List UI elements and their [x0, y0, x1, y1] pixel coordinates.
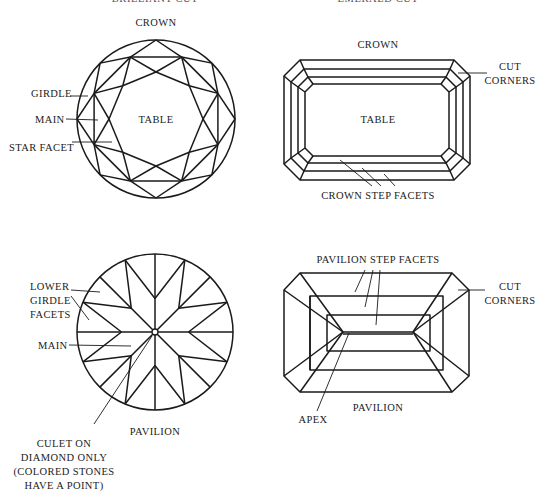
emerald-crown-title: CROWN	[357, 39, 398, 50]
crown-cut-corners-line1: CUT	[499, 61, 521, 72]
crown-corner-edge	[449, 87, 456, 92]
crown-corner-edge	[300, 60, 304, 69]
crown-corner-edge	[463, 76, 470, 82]
crown-corner-edge	[456, 82, 463, 87]
crown-star-edge	[94, 119, 109, 145]
crown-table-edge	[189, 86, 203, 119]
leader-main	[66, 119, 98, 120]
crown-corner-edge	[284, 158, 291, 164]
lower-girdle-line3: FACETS	[30, 309, 71, 320]
emerald-crown-table-label: TABLE	[361, 114, 396, 125]
lower-girdle-line1: LOWER	[30, 281, 69, 292]
brilliant-pavilion: LOWER GIRDLE FACETS MAIN PAVILION CULET …	[13, 254, 233, 492]
leader-lower-girdle-1	[71, 290, 100, 292]
crown-star-edge	[130, 166, 156, 181]
crown-corner-edge	[300, 171, 304, 180]
crown-corner-edge	[308, 77, 313, 84]
pavilion-main-line	[100, 332, 155, 387]
crown-corner-edge	[308, 156, 313, 163]
crown-table-edge	[189, 119, 203, 152]
crown-cut-corners-line2: CORNERS	[484, 75, 535, 86]
crown-star-edge	[203, 93, 218, 119]
culet-line2: DIAMOND ONLY	[21, 452, 107, 463]
crown-star-edge	[156, 57, 182, 72]
brilliant-crown-table-label: TABLE	[139, 114, 174, 125]
crown-corner-edge	[284, 76, 291, 82]
crown-corner-edge	[449, 148, 456, 153]
pavilion-main-line	[100, 277, 155, 332]
crown-table-edge	[156, 152, 189, 166]
crown-corner-edge	[304, 163, 308, 171]
crown-corner-edge	[291, 82, 298, 87]
leader-pav-step-2	[365, 270, 373, 307]
pavilion-cut-corners-line2: CORNERS	[484, 295, 535, 306]
crown-star-edge	[203, 119, 218, 145]
crown-corner-edge	[441, 156, 446, 163]
callout-star-facet: STAR FACET	[9, 142, 74, 153]
pavilion-step-ring-2	[310, 296, 443, 370]
crown-corner-edge	[446, 69, 450, 77]
brilliant-crown: CROWN TABLE GIRDLE MAIN STAR FACET	[9, 17, 235, 198]
emerald-pavilion: PAVILION STEP FACETS CUT CORNERS PAVILIO…	[284, 254, 536, 425]
callout-girdle: GIRDLE	[31, 88, 72, 99]
emerald-crown: CROWN TABLE CUT CORNERS CROWN STEP FACET…	[284, 39, 536, 201]
crown-corner-edge	[291, 153, 298, 158]
crown-corner-edge	[450, 171, 454, 180]
gem-cut-diagram: BRILLIANT CUT EMERALD CUT CROWN TABLE GI…	[0, 0, 539, 492]
crown-corner-edge	[456, 153, 463, 158]
pavilion-cut-corners-line1: CUT	[499, 281, 521, 292]
crown-table-edge	[123, 72, 156, 86]
pavilion-corner-line	[300, 273, 343, 332]
header-brilliant-cut: BRILLIANT CUT	[112, 0, 199, 4]
crown-corner-edge	[450, 60, 454, 69]
crown-corner-edge	[463, 158, 470, 164]
crown-corner-edge	[441, 77, 446, 84]
crown-corner-edge	[446, 163, 450, 171]
leader-lower-girdle-2	[71, 296, 89, 320]
pavilion-step-facets-label: PAVILION STEP FACETS	[317, 254, 440, 265]
pavilion-corner-line	[300, 332, 343, 392]
crown-table-edge	[109, 119, 123, 152]
crown-corner-edge	[298, 87, 305, 92]
pavilion-corner-line	[413, 332, 452, 392]
callout-main: MAIN	[35, 114, 65, 125]
culet-line4: HAVE A POINT)	[24, 480, 103, 492]
crown-table-edge	[109, 86, 123, 119]
culet-line1: CULET ON	[37, 438, 92, 449]
culet-line3: (COLORED STONES	[13, 466, 114, 478]
apex-label: APEX	[298, 414, 327, 425]
crown-star-edge	[130, 57, 156, 72]
crown-step-facets-label: CROWN STEP FACETS	[321, 190, 435, 201]
header-emerald-cut: EMERALD CUT	[338, 0, 419, 4]
crown-table-edge	[156, 72, 189, 86]
crown-star-edge	[94, 93, 109, 119]
culet-point	[152, 329, 158, 335]
brilliant-pavilion-title: PAVILION	[130, 426, 180, 437]
crown-corner-edge	[304, 69, 308, 77]
pavilion-main-label: MAIN	[38, 340, 68, 351]
pavilion-main-line	[155, 277, 210, 332]
crown-corner-edge	[298, 148, 305, 153]
brilliant-crown-title: CROWN	[135, 17, 176, 28]
leader-pav-step-3	[376, 270, 380, 325]
lower-girdle-line2: GIRDLE	[30, 295, 71, 306]
pavilion-main-line	[155, 332, 210, 387]
crown-table-edge	[123, 152, 156, 166]
pavilion-corner-line	[413, 273, 452, 332]
emerald-pavilion-title: PAVILION	[353, 402, 403, 413]
crown-star-edge	[156, 166, 182, 181]
emerald-pavilion-facets	[284, 273, 469, 392]
